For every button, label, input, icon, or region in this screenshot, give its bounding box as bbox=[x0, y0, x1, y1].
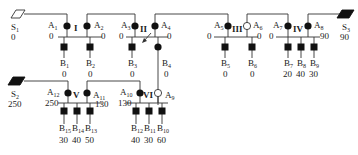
svg-text:40: 40 bbox=[131, 135, 141, 145]
sink-b10-icon bbox=[159, 108, 166, 115]
svg-text:B2: B2 bbox=[86, 58, 95, 69]
svg-text:0: 0 bbox=[101, 31, 106, 41]
station-label-3: III bbox=[232, 24, 243, 34]
svg-text:B13: B13 bbox=[85, 123, 97, 134]
svg-text:B1: B1 bbox=[60, 58, 69, 69]
sink-b8-icon bbox=[298, 44, 305, 51]
svg-text:B3: B3 bbox=[128, 58, 137, 69]
sink-b3-icon bbox=[129, 44, 136, 51]
svg-text:20: 20 bbox=[283, 69, 293, 79]
node-a2-icon bbox=[83, 22, 90, 29]
svg-text:B4: B4 bbox=[162, 58, 171, 69]
svg-text:0: 0 bbox=[269, 31, 274, 41]
sink-b13-icon bbox=[87, 108, 94, 115]
svg-text:A7: A7 bbox=[273, 20, 283, 31]
svg-text:A4: A4 bbox=[161, 20, 171, 31]
station-label-6: VI bbox=[143, 90, 153, 100]
source-s1-icon bbox=[11, 10, 25, 18]
svg-text:B9: B9 bbox=[310, 58, 319, 69]
sink-b5-icon bbox=[222, 44, 229, 51]
svg-text:30: 30 bbox=[309, 69, 319, 79]
svg-text:0: 0 bbox=[119, 31, 124, 41]
sink-b7-icon bbox=[285, 44, 292, 51]
svg-text:0: 0 bbox=[62, 69, 67, 79]
arrow-icon bbox=[142, 33, 151, 43]
svg-text:0: 0 bbox=[88, 69, 93, 79]
svg-text:0: 0 bbox=[257, 31, 262, 41]
station-label-2: II bbox=[140, 24, 148, 34]
svg-text:A3: A3 bbox=[121, 20, 131, 31]
node-a9-icon bbox=[154, 89, 161, 96]
node-b4-circle-icon bbox=[154, 43, 161, 50]
svg-text:B8: B8 bbox=[297, 58, 306, 69]
edge-s2-a12 bbox=[24, 81, 68, 92]
svg-text:A5: A5 bbox=[214, 20, 224, 31]
station-label-1: I bbox=[74, 23, 78, 33]
svg-text:0: 0 bbox=[223, 69, 228, 79]
svg-text:30: 30 bbox=[144, 135, 154, 145]
svg-text:0: 0 bbox=[164, 69, 169, 79]
svg-text:A1: A1 bbox=[48, 20, 58, 31]
station-label-5: V bbox=[73, 90, 80, 100]
svg-text:0: 0 bbox=[49, 31, 54, 41]
svg-text:40: 40 bbox=[72, 135, 82, 145]
node-a1-icon bbox=[63, 22, 70, 29]
svg-text:B5: B5 bbox=[221, 58, 230, 69]
svg-text:0: 0 bbox=[167, 31, 172, 41]
svg-text:0: 0 bbox=[130, 69, 135, 79]
source-s3-value: 90 bbox=[340, 32, 350, 42]
svg-text:130: 130 bbox=[95, 99, 109, 109]
svg-text:A9: A9 bbox=[165, 90, 175, 101]
svg-text:90: 90 bbox=[320, 31, 330, 41]
source-s2-value: 250 bbox=[8, 99, 22, 109]
svg-text:130: 130 bbox=[118, 98, 132, 108]
svg-text:0: 0 bbox=[250, 69, 255, 79]
svg-text:250: 250 bbox=[45, 98, 59, 108]
station-label-4: IV bbox=[293, 24, 304, 34]
source-s1-value: 0 bbox=[11, 32, 16, 42]
sink-b1-icon bbox=[61, 44, 68, 51]
svg-text:40: 40 bbox=[296, 69, 306, 79]
sink-b9-icon bbox=[311, 44, 318, 51]
sink-b14-icon bbox=[74, 108, 81, 115]
node-a11-icon bbox=[83, 89, 90, 96]
node-a3-icon bbox=[131, 22, 138, 29]
sink-b15-icon bbox=[61, 108, 68, 115]
node-a6-icon bbox=[243, 22, 250, 29]
svg-text:B10: B10 bbox=[157, 123, 169, 134]
node-a4-icon bbox=[151, 22, 158, 29]
node-a5-icon bbox=[224, 22, 231, 29]
sink-b12-icon bbox=[133, 108, 140, 115]
svg-text:50: 50 bbox=[85, 135, 95, 145]
svg-text:60: 60 bbox=[157, 135, 167, 145]
svg-text:B11: B11 bbox=[144, 123, 156, 134]
svg-text:A8: A8 bbox=[314, 20, 324, 31]
svg-text:B14: B14 bbox=[72, 123, 84, 134]
svg-text:A2: A2 bbox=[94, 20, 104, 31]
svg-text:B7: B7 bbox=[284, 58, 293, 69]
svg-text:A10: A10 bbox=[120, 87, 133, 98]
svg-text:0: 0 bbox=[207, 31, 212, 41]
svg-text:30: 30 bbox=[59, 135, 69, 145]
node-a7-icon bbox=[284, 22, 291, 29]
sink-b2-icon bbox=[87, 44, 94, 51]
node-a8-icon bbox=[304, 22, 311, 29]
sink-b11-icon bbox=[146, 108, 153, 115]
source-s3-icon bbox=[337, 10, 354, 18]
svg-text:B15: B15 bbox=[59, 123, 71, 134]
svg-text:B6: B6 bbox=[248, 58, 257, 69]
network-diagram: S1 0 S2 250 S3 90 I II III IV V VI A1 0 … bbox=[0, 0, 358, 155]
svg-text:A12: A12 bbox=[47, 87, 60, 98]
node-a12-icon bbox=[64, 89, 71, 96]
svg-text:A6: A6 bbox=[253, 20, 263, 31]
source-s2-icon bbox=[8, 77, 25, 85]
sink-b6-icon bbox=[249, 44, 256, 51]
edge-a8-s3 bbox=[308, 14, 340, 24]
svg-text:B12: B12 bbox=[131, 123, 143, 134]
edge-s1-a1 bbox=[24, 14, 67, 24]
